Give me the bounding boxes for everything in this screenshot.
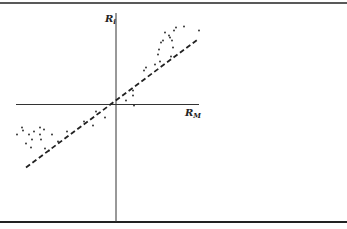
data-point bbox=[39, 127, 41, 129]
data-point bbox=[21, 127, 23, 129]
data-point bbox=[172, 47, 174, 49]
data-point bbox=[104, 117, 106, 119]
data-point bbox=[168, 35, 170, 37]
data-point bbox=[162, 40, 164, 42]
data-point bbox=[40, 139, 42, 141]
data-point bbox=[164, 32, 166, 34]
data-point bbox=[171, 40, 173, 42]
data-point bbox=[43, 129, 45, 131]
data-point bbox=[159, 61, 161, 63]
data-point bbox=[33, 131, 35, 133]
data-point bbox=[143, 70, 145, 72]
data-point bbox=[132, 90, 134, 92]
data-point bbox=[170, 56, 172, 58]
data-point bbox=[160, 42, 162, 44]
data-points bbox=[16, 26, 200, 152]
y-axis-label: Ri bbox=[104, 13, 116, 26]
data-point bbox=[57, 141, 59, 143]
data-point bbox=[145, 67, 147, 69]
data-point bbox=[16, 134, 18, 136]
data-point bbox=[31, 139, 33, 141]
data-point bbox=[95, 111, 97, 113]
data-point bbox=[83, 121, 85, 123]
data-point bbox=[133, 105, 135, 107]
dashed-fit-line bbox=[26, 39, 199, 168]
data-point bbox=[44, 148, 46, 150]
x-axis-label: RM bbox=[184, 107, 201, 120]
data-point bbox=[25, 143, 27, 145]
data-point bbox=[158, 49, 160, 51]
data-point bbox=[175, 27, 177, 29]
scatter-chart: Ri RM bbox=[0, 0, 347, 229]
regression-line bbox=[26, 39, 199, 168]
data-point bbox=[154, 64, 156, 66]
data-point bbox=[125, 100, 127, 102]
data-point bbox=[173, 30, 175, 32]
data-point bbox=[48, 150, 50, 152]
data-point bbox=[66, 131, 68, 133]
data-point bbox=[39, 134, 41, 136]
data-point bbox=[198, 30, 200, 32]
data-point bbox=[22, 130, 24, 132]
data-point bbox=[51, 134, 53, 136]
data-point bbox=[169, 37, 171, 39]
data-point bbox=[28, 134, 30, 136]
data-point bbox=[30, 147, 32, 149]
data-point bbox=[157, 54, 159, 56]
data-point bbox=[92, 125, 94, 127]
data-point bbox=[132, 95, 134, 97]
data-point bbox=[183, 26, 185, 28]
